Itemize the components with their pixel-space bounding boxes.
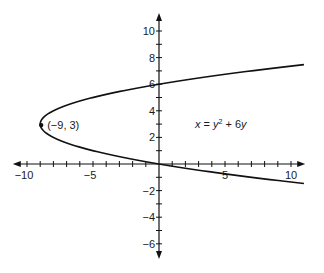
y-tick-label: 6: [149, 78, 155, 90]
y-tick-label: 8: [149, 52, 155, 64]
parabola-chart: −10−5510108642−2−4−6 (−9, 3) x = y2 + 6y: [0, 0, 324, 273]
eq-plus-six: + 6: [222, 118, 241, 130]
y-tick-label: −6: [142, 238, 155, 250]
eq-equals: =: [201, 118, 214, 130]
vertex-point: [39, 123, 43, 127]
eq-y2: y: [240, 118, 248, 130]
vertex-label: (−9, 3): [47, 119, 79, 131]
y-tick-label: 4: [149, 105, 155, 117]
x-tick-label: 10: [285, 169, 297, 181]
y-tick-label: 10: [143, 25, 155, 37]
y-tick-label: 2: [149, 131, 155, 143]
equation-label: x = y2 + 6y: [194, 118, 248, 130]
axes: [13, 13, 305, 259]
x-axis-left-arrow-icon: [13, 161, 21, 167]
x-tick-label: 5: [222, 169, 228, 181]
y-axis-up-arrow-icon: [156, 13, 162, 21]
y-axis-down-arrow-icon: [156, 251, 162, 259]
x-tick-label: −10: [15, 169, 34, 181]
y-tick-label: −4: [142, 211, 155, 223]
x-axis-right-arrow-icon: [297, 161, 305, 167]
tick-labels: −10−5510108642−2−4−6: [15, 25, 297, 250]
x-tick-label: −5: [84, 169, 97, 181]
y-tick-label: −2: [142, 185, 155, 197]
